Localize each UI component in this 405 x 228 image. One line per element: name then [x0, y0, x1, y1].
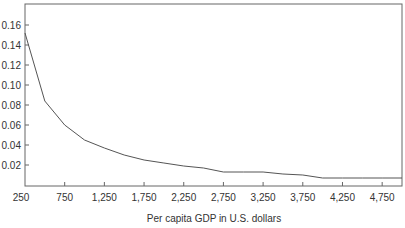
- y-tick-label: 0.02: [2, 160, 22, 171]
- x-tick-label: 4,250: [330, 192, 355, 203]
- y-tick-label: 0.14: [2, 40, 22, 51]
- y-tick-label: 0.06: [2, 120, 22, 131]
- x-tick-label: 1,750: [132, 192, 157, 203]
- x-tick-label: 2,750: [211, 192, 236, 203]
- x-axis-title: Per capita GDP in U.S. dollars: [147, 213, 281, 224]
- plot-border: [25, 4, 402, 186]
- plot-frame: [25, 4, 402, 186]
- y-tick-label: 0.12: [2, 60, 22, 71]
- x-tick-label: 4,750: [370, 192, 395, 203]
- x-tick-label: 3,250: [251, 192, 276, 203]
- data-line: [25, 33, 402, 178]
- x-axis: 2507501,2501,7502,2502,7503,2503,7504,25…: [13, 182, 395, 203]
- y-tick-label: 0.16: [2, 20, 22, 31]
- x-tick-label: 2,250: [171, 192, 196, 203]
- y-tick-label: 0.08: [2, 100, 22, 111]
- x-tick-label: 250: [13, 192, 30, 203]
- x-tick-label: 1,250: [92, 192, 117, 203]
- y-tick-label: 0.04: [2, 140, 22, 151]
- x-tick-label: 3,750: [290, 192, 315, 203]
- chart: 0.020.040.060.080.100.120.140.16 2507501…: [0, 0, 405, 228]
- y-tick-label: 0.10: [2, 80, 22, 91]
- x-tick-label: 750: [56, 192, 73, 203]
